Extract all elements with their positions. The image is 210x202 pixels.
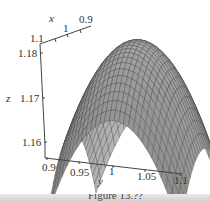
z-tick-1.17: 1.17 [20, 92, 40, 104]
z-tick-1.18: 1.18 [18, 47, 38, 59]
x-tick-1: 1 [63, 22, 69, 34]
figure-caption-bar: Figure 13.?? [0, 194, 210, 202]
y-axis-label: y [97, 175, 103, 187]
z-tick-1.16: 1.16 [22, 136, 42, 148]
z-axis-label: z [5, 92, 11, 104]
x-tick-0.9: 0.9 [79, 13, 93, 25]
y-tick-0.95: 0.95 [70, 166, 90, 178]
x-axis: x 1.1 1 0.9 [30, 12, 93, 44]
surface-plot: x 1.1 1 0.9 1.18 1.17 1.16 z 0.9 0.95 1 … [0, 0, 210, 202]
y-tick-1.1: 1.1 [174, 174, 188, 186]
y-tick-1.05: 1.05 [137, 170, 157, 182]
x-tick-1.1: 1.1 [30, 32, 44, 44]
y-tick-0.9: 0.9 [42, 161, 56, 173]
y-tick-1: 1 [109, 165, 115, 177]
z-axis: 1.18 1.17 1.16 z [5, 44, 47, 148]
figure-caption: Figure 13.?? [88, 194, 143, 201]
x-axis-label: x [48, 12, 54, 24]
